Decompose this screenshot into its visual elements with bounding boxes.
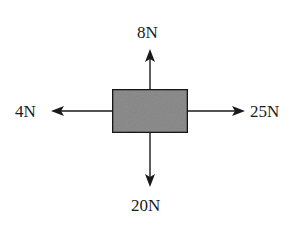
object-box: [113, 90, 188, 133]
force-label-down: 20N: [131, 197, 160, 214]
force-label-right: 25N: [250, 103, 279, 120]
force-arrow-down: [145, 133, 155, 187]
force-arrow-left: [51, 106, 112, 116]
force-label-up: 8N: [137, 24, 158, 41]
force-arrow-right: [188, 106, 245, 116]
force-label-left: 4N: [15, 103, 36, 120]
force-arrow-up: [145, 49, 155, 89]
free-body-diagram: 8N 20N 4N 25N: [0, 0, 303, 225]
